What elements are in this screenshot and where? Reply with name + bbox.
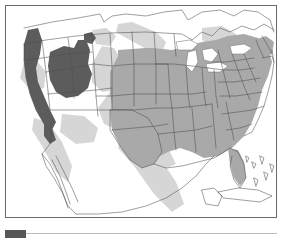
map-legend (5, 230, 277, 239)
legend-rule (26, 233, 277, 234)
map-frame (5, 5, 277, 218)
map-figure (0, 0, 282, 240)
legend-swatch-high (5, 230, 26, 238)
map-canvas (6, 6, 276, 217)
